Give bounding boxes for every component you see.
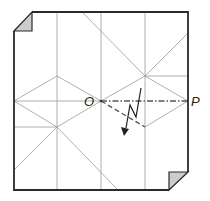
top-left-folded-corner <box>14 12 32 31</box>
fold-lines <box>101 101 188 127</box>
bottom-right-folded-corner <box>169 172 188 190</box>
origami-diagram: O P <box>0 0 210 201</box>
label-o: O <box>84 94 94 109</box>
node-o <box>100 100 103 103</box>
pleat-arrow-icon <box>121 88 141 136</box>
label-p: P <box>191 94 200 109</box>
